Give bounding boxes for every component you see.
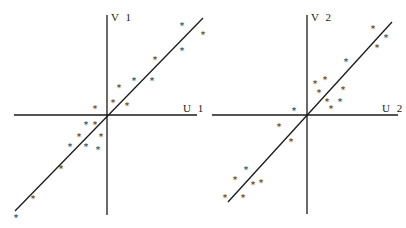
u1-axis-label: U 1 [183, 102, 205, 114]
data-point: * [117, 83, 122, 93]
data-point: * [68, 142, 73, 152]
data-point: * [99, 132, 104, 142]
scatter-plot-1: V 1 U 1 ******************** [14, 11, 206, 223]
data-point: * [371, 24, 376, 34]
data-point: * [125, 101, 130, 111]
data-point: * [59, 164, 64, 174]
data-point: * [14, 213, 19, 223]
data-point: * [180, 46, 185, 56]
data-point: * [84, 120, 89, 130]
data-point: * [292, 106, 297, 116]
scatter-plot-2: V 2 U 2 ******************** [212, 11, 404, 214]
data-point: * [111, 98, 116, 108]
data-point: * [132, 76, 137, 86]
data-point: * [153, 55, 158, 65]
data-points-2: ******************** [223, 24, 389, 203]
data-point: * [384, 33, 389, 43]
data-point: * [289, 137, 294, 147]
data-point: * [338, 97, 343, 107]
data-point: * [150, 76, 155, 86]
data-point: * [251, 180, 256, 190]
data-point: * [329, 104, 334, 114]
v1-axis-label: V 1 [111, 11, 133, 23]
data-point: * [341, 85, 346, 95]
data-point: * [241, 193, 246, 203]
data-point: * [77, 132, 82, 142]
data-point: * [223, 193, 228, 203]
data-points-1: ******************** [14, 21, 206, 223]
data-point: * [96, 145, 101, 155]
data-point: * [93, 120, 98, 130]
v2-axis-label: V 2 [311, 11, 333, 23]
data-point: * [317, 88, 322, 98]
data-point: * [84, 142, 89, 152]
data-point: * [277, 122, 282, 132]
data-point: * [244, 165, 249, 175]
data-point: * [323, 75, 328, 85]
data-point: * [31, 194, 36, 204]
data-point: * [180, 21, 185, 31]
scatter-plots: V 1 U 1 ******************** V 2 U 2 ***… [0, 0, 406, 228]
u2-axis-label: U 2 [382, 102, 404, 114]
data-point: * [201, 30, 206, 40]
data-point: * [93, 104, 98, 114]
data-point: * [233, 175, 238, 185]
fit-line-2 [228, 22, 392, 202]
data-point: * [344, 57, 349, 67]
data-point: * [375, 43, 380, 53]
data-point: * [259, 178, 264, 188]
